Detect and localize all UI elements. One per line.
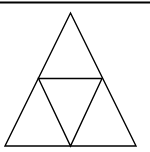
inner-inverted-triangle bbox=[39, 79, 103, 147]
subdivided-triangle-diagram bbox=[0, 0, 150, 152]
outer-triangle bbox=[5, 13, 136, 146]
